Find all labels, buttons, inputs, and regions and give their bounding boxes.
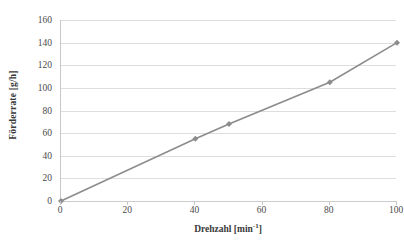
y-axis-tick-label: 20 — [43, 173, 53, 183]
y-axis-tick-label: 40 — [43, 151, 53, 161]
x-axis-tick-label: 40 — [190, 205, 200, 215]
x-axis-tick-label: 60 — [257, 205, 267, 215]
y-axis-tick-label: 80 — [43, 106, 53, 116]
y-axis-tick-label: 120 — [38, 60, 52, 70]
x-axis-tick-labels: 020406080100 — [60, 205, 396, 221]
x-axis-tick-label: 0 — [58, 205, 63, 215]
y-axis-tick-labels: 020406080100120140160 — [24, 14, 56, 206]
series-line-foerderrate — [61, 20, 397, 201]
y-axis-tick-label: 0 — [47, 196, 52, 206]
y-axis-title-label: Förderrate [g/h] — [8, 70, 18, 139]
y-axis-tick-label: 140 — [38, 38, 52, 48]
y-axis-tick-label: 100 — [38, 83, 52, 93]
x-axis-title-base: Drehzahl [min — [194, 224, 253, 234]
y-axis-tick-label: 160 — [38, 15, 52, 25]
plot-area — [60, 20, 396, 201]
x-axis-tick-label: 20 — [122, 205, 132, 215]
x-axis-title-suffix: ] — [259, 224, 262, 234]
x-axis-title: Drehzahl [min-1] — [60, 222, 396, 234]
line-chart: Förderrate [g/h] 020406080100120140160 0… — [0, 0, 404, 244]
data-point-marker — [192, 136, 198, 142]
y-axis-tick-label: 60 — [43, 128, 53, 138]
data-point-marker — [226, 121, 232, 127]
x-axis-tick-label: 80 — [324, 205, 334, 215]
y-axis-title: Förderrate [g/h] — [2, 0, 24, 210]
x-axis-tick-label: 100 — [389, 205, 403, 215]
